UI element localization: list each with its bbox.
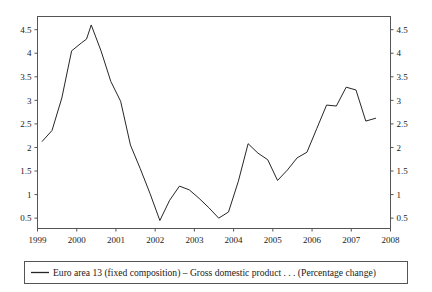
y-tick-label-left: 0.5 xyxy=(20,213,32,223)
y-tick-label-left: 2.5 xyxy=(20,119,32,129)
x-tick-label: 2006 xyxy=(303,235,322,245)
line-chart-canvas: 0.511.522.533.544.5 0.511.522.533.544.5 … xyxy=(0,0,432,292)
x-tick-label: 2001 xyxy=(107,235,125,245)
chart-figure: 0.511.522.533.544.5 0.511.522.533.544.5 … xyxy=(0,0,432,292)
x-tick-label: 2003 xyxy=(185,235,204,245)
x-tick-label: 2000 xyxy=(68,235,87,245)
y-tick-label-left: 1 xyxy=(27,190,32,200)
y-tick-label-right: 3 xyxy=(397,96,402,106)
y-tick-label-right: 3.5 xyxy=(397,72,409,82)
x-tick-label: 2005 xyxy=(264,235,283,245)
y-tick-label-right: 1 xyxy=(397,190,402,200)
legend-entry-label: Euro area 13 (fixed composition) – Gross… xyxy=(53,267,376,279)
y-tick-label-left: 4.5 xyxy=(20,25,32,35)
y-tick-label-right: 4 xyxy=(397,48,402,58)
x-tick-label: 1999 xyxy=(29,235,48,245)
x-tick-label: 2002 xyxy=(146,235,164,245)
y-tick-label-right: 1.5 xyxy=(397,166,409,176)
y-tick-label-left: 3.5 xyxy=(20,72,32,82)
y-tick-label-right: 4.5 xyxy=(397,25,409,35)
y-tick-label-left: 4 xyxy=(27,48,32,58)
x-tick-label: 2004 xyxy=(225,235,244,245)
y-tick-label-right: 0.5 xyxy=(397,213,409,223)
y-tick-label-right: 2.5 xyxy=(397,119,409,129)
y-tick-label-left: 3 xyxy=(27,96,32,106)
y-tick-label-left: 2 xyxy=(27,143,32,153)
x-tick-label: 2008 xyxy=(382,235,401,245)
y-tick-label-right: 2 xyxy=(397,143,402,153)
x-tick-label: 2007 xyxy=(342,235,361,245)
chart-background xyxy=(0,0,432,292)
y-tick-label-left: 1.5 xyxy=(20,166,32,176)
